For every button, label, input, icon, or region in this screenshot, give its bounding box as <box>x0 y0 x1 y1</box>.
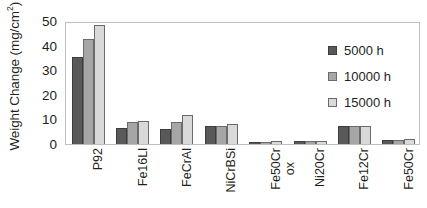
legend-item-label: 15000 h <box>344 95 391 110</box>
y-axis-tick-label: 10 <box>42 113 57 127</box>
bar-group <box>288 23 332 144</box>
x-axis-tick-label-line1: Fe16Ll <box>137 148 150 186</box>
y-axis-tick-label: 40 <box>42 40 57 54</box>
bar <box>127 122 138 144</box>
bar <box>83 39 94 144</box>
y-axis-tick-label: 0 <box>49 138 57 152</box>
y-axis-title-superscript: 2 <box>5 6 15 11</box>
bar <box>349 126 360 144</box>
bar-group <box>199 23 243 144</box>
bar <box>260 142 271 144</box>
bar <box>360 126 371 144</box>
bar <box>205 126 216 144</box>
x-axis-tick-label-line1: Fe12Cr <box>358 148 371 190</box>
y-axis-tick-label: 50 <box>42 15 57 29</box>
legend-item: 10000 h <box>328 63 420 89</box>
x-axis-tick-label-line1: P92 <box>92 148 105 170</box>
bar <box>305 141 316 144</box>
bar-chart: Weight Change (mg/cm2) 01020304050 5000 … <box>0 0 427 208</box>
bar <box>338 126 349 144</box>
bar <box>182 115 193 144</box>
bar-group <box>155 23 199 144</box>
legend-swatch-icon <box>328 46 337 55</box>
legend-swatch-icon <box>328 72 337 81</box>
bar-group <box>110 23 154 144</box>
bar <box>116 128 127 144</box>
bar <box>160 129 171 144</box>
bar <box>249 142 260 144</box>
bar <box>382 140 393 144</box>
bar <box>72 57 83 144</box>
y-axis-title: Weight Change (mg/cm2) <box>0 0 26 152</box>
bar <box>227 124 238 144</box>
bar-group <box>66 23 110 144</box>
legend: 5000 h10000 h15000 h <box>328 37 420 115</box>
legend-item-label: 5000 h <box>344 43 384 58</box>
legend-item: 5000 h <box>328 37 420 63</box>
x-axis-tick-label-line2: ox <box>284 162 297 175</box>
x-axis-tick-label-line1: Fe50Cr <box>270 148 283 190</box>
bar <box>393 140 404 144</box>
bar <box>271 141 282 144</box>
x-axis-tick-label-line1: FeCrAl <box>181 148 194 187</box>
y-axis-title-tail: ) <box>6 2 21 6</box>
legend-swatch-icon <box>328 98 337 107</box>
y-axis-tick-label: 20 <box>42 89 57 103</box>
bar <box>316 141 327 144</box>
x-axis-tick-label-line1: Ni20Cr <box>314 148 327 187</box>
bar-group <box>244 23 288 144</box>
y-axis-tick-labels: 01020304050 <box>26 14 62 152</box>
legend-item: 15000 h <box>328 89 420 115</box>
bar <box>294 141 305 144</box>
bar <box>138 121 149 144</box>
y-axis-tick-label: 30 <box>42 64 57 78</box>
legend-item-label: 10000 h <box>344 69 391 84</box>
x-axis-tick-label-line1: NiCrBSi <box>225 148 238 192</box>
x-axis-tick-labels: P92Fe16LlFeCrAlNiCrBSiFe50CroxNi20CrFe12… <box>65 146 420 208</box>
x-axis-tick-label-line1: Fe50Cr <box>403 148 416 190</box>
y-axis-title-text: Weight Change (mg/cm2) <box>5 2 22 151</box>
bar <box>216 126 227 144</box>
plot-area: 5000 h10000 h15000 h <box>65 22 420 145</box>
bar <box>404 139 415 144</box>
bar <box>94 25 105 144</box>
y-axis-title-main: Weight Change (mg/cm <box>6 11 21 151</box>
bar <box>171 122 182 144</box>
